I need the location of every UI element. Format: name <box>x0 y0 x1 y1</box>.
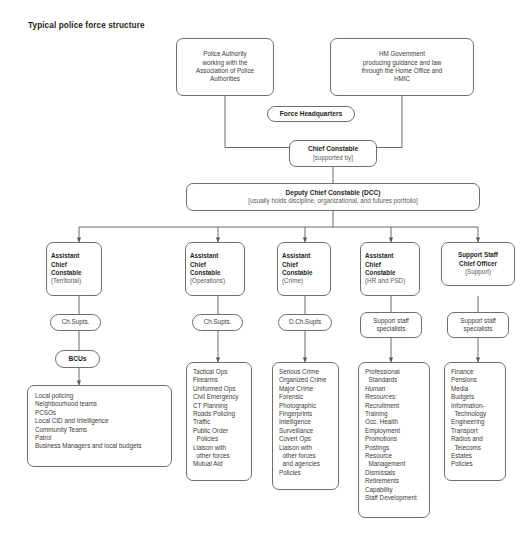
bcus-box[interactable]: BCUs <box>55 350 100 368</box>
territorial-item: Local CID and Intelligence <box>35 417 109 425</box>
hm-government-line-3: through the Home Office and <box>362 67 443 75</box>
operations-item: Roads Policing <box>193 410 235 418</box>
hr-psd-functions-box[interactable]: Professional Standards Human Resources: … <box>358 362 430 518</box>
operations-item: Tactical Ops <box>193 368 227 376</box>
acc-hr-psd-line-2: Chief <box>365 261 381 269</box>
support-item: Media <box>451 385 468 393</box>
police-authority-line-1: Police Authority <box>203 50 246 58</box>
crime-item: Serious Crime <box>279 368 319 376</box>
acc-operations-box[interactable]: Assistant Chief Constable (Operations) <box>185 242 245 296</box>
hr-psd-item: Promotions <box>365 435 397 443</box>
chief-constable-title: Chief Constable <box>308 145 358 154</box>
acc-operations-line-1: Assistant <box>190 252 218 260</box>
support-staff-specialists-support-box[interactable]: Support staff specialists <box>447 312 509 338</box>
hr-psd-item: Professional <box>365 368 400 376</box>
police-authority-box[interactable]: Police Authority working with the Associ… <box>176 38 274 96</box>
hr-psd-item: Standards <box>365 376 397 384</box>
crime-item: Surveillance <box>279 427 313 435</box>
hr-psd-item: Retirements <box>365 477 399 485</box>
crime-item: Covert Ops <box>279 435 311 443</box>
support-specialists-support-line-2: specialists <box>463 325 492 333</box>
operations-item: Public Order <box>193 427 228 435</box>
territorial-item: PCSOs <box>35 409 56 417</box>
ch-supts-operations-label: Ch.Supts. <box>204 318 232 326</box>
operations-item: Mutual Aid <box>193 460 222 468</box>
acc-crime-line-3: Constable <box>282 269 312 277</box>
operations-item: Firearms <box>193 376 218 384</box>
hr-psd-item: Recruitment <box>365 402 399 410</box>
acc-operations-line-3: Constable <box>190 269 220 277</box>
police-authority-line-2: working with the <box>202 59 247 67</box>
crime-item: Organized Crime <box>279 376 327 384</box>
operations-item: Liaison with <box>193 444 226 452</box>
hr-psd-item: Postings <box>365 444 389 452</box>
acc-territorial-sub: (Territorial) <box>51 277 81 285</box>
acc-operations-line-2: Chief <box>190 261 206 269</box>
support-item: Estates <box>451 452 472 460</box>
crime-item: Photographic <box>279 402 316 410</box>
operations-item: Uniformed Ops <box>193 385 235 393</box>
hr-psd-item: Management <box>365 460 405 468</box>
hr-psd-item: Human <box>365 385 385 393</box>
acc-territorial-line-3: Constable <box>51 269 81 277</box>
acc-crime-sub: (Crime) <box>282 277 303 285</box>
acc-crime-box[interactable]: Assistant Chief Constable (Crime) <box>277 242 331 296</box>
bcus-label: BCUs <box>69 355 87 364</box>
force-headquarters-label: Force Headquarters <box>280 110 342 119</box>
chief-constable-subtitle: [supported by] <box>313 154 353 162</box>
operations-item: Civil Emergency <box>193 393 239 401</box>
chief-constable-box[interactable]: Chief Constable [supported by] <box>289 140 377 167</box>
acc-crime-line-2: Chief <box>282 261 298 269</box>
support-item: Radios and <box>451 435 483 443</box>
support-staff-chief-officer-box[interactable]: Support Staff Chief Officer (Support) <box>441 242 515 286</box>
acc-hr-psd-line-1: Assistant <box>365 252 393 260</box>
territorial-item: Local policing <box>35 392 73 400</box>
crime-item: Liaison with <box>279 444 312 452</box>
acc-territorial-line-1: Assistant <box>51 252 79 260</box>
support-staff-specialists-hr-box[interactable]: Support staff specialists <box>360 312 422 338</box>
territorial-item: Business Managers and local budgets <box>35 442 141 450</box>
deputy-chief-constable-box[interactable]: Deputy Chief Constable (DCC) [usually ho… <box>186 183 480 211</box>
crime-item: other forces <box>279 452 316 460</box>
support-item: Telecoms <box>451 444 481 452</box>
crime-item: Intelligence <box>279 418 311 426</box>
force-headquarters-box[interactable]: Force Headquarters <box>267 106 355 122</box>
hr-psd-item: Capability <box>365 486 393 494</box>
territorial-item: Community Teams <box>35 426 87 434</box>
crime-item: Policies <box>279 469 301 477</box>
support-chief-officer-line-2: Chief Officer <box>459 260 497 268</box>
hr-psd-item: Staff Development <box>365 494 417 502</box>
operations-item: other forces <box>193 452 230 460</box>
crime-item: Fingerprints <box>279 410 312 418</box>
support-functions-box[interactable]: Finance Pensions Media Budgets Informati… <box>444 362 506 481</box>
ch-supts-operations-box[interactable]: Ch.Supts. <box>192 314 243 331</box>
operations-functions-box[interactable]: Tactical Ops Firearms Uniformed Ops Civi… <box>186 362 252 481</box>
support-item: Budgets <box>451 393 474 401</box>
support-chief-officer-line-1: Support Staff <box>458 251 498 259</box>
hm-government-box[interactable]: HM Government producing guidance and law… <box>330 38 474 96</box>
support-item: Engineering <box>451 418 485 426</box>
support-item: Pensions <box>451 376 477 384</box>
crime-functions-box[interactable]: Serious Crime Organized Crime Major Crim… <box>272 362 339 490</box>
police-authority-line-3: Association of Police <box>196 67 254 75</box>
acc-operations-sub: (Operations) <box>190 277 225 285</box>
hr-psd-item: Resource <box>365 452 392 460</box>
support-item: Policies <box>451 460 473 468</box>
territorial-functions-box[interactable]: Local policing Neighbourhood teams PCSOs… <box>27 385 172 467</box>
acc-territorial-line-2: Chief <box>51 261 67 269</box>
acc-territorial-box[interactable]: Assistant Chief Constable (Territorial) <box>46 242 102 296</box>
hr-psd-item: Resources: <box>365 393 397 401</box>
dcc-title: Deputy Chief Constable (DCC) <box>286 189 381 198</box>
acc-hr-psd-box[interactable]: Assistant Chief Constable (HR and PSD) <box>360 242 420 296</box>
acc-crime-line-1: Assistant <box>282 252 310 260</box>
territorial-item: Patrol <box>35 434 51 442</box>
dch-supts-crime-box[interactable]: D.Ch.Supts <box>278 314 332 331</box>
diagram-canvas: Typical police force structure <box>0 0 531 547</box>
ch-supts-territorial-box[interactable]: Ch.Supts. <box>50 314 101 331</box>
support-item: Finance <box>451 368 473 376</box>
territorial-item: Neighbourhood teams <box>35 400 97 408</box>
hm-government-line-1: HM Government <box>379 50 425 58</box>
operations-item: CT Planning <box>193 402 228 410</box>
page-title: Typical police force structure <box>28 21 145 30</box>
crime-item: Major Crime <box>279 385 313 393</box>
